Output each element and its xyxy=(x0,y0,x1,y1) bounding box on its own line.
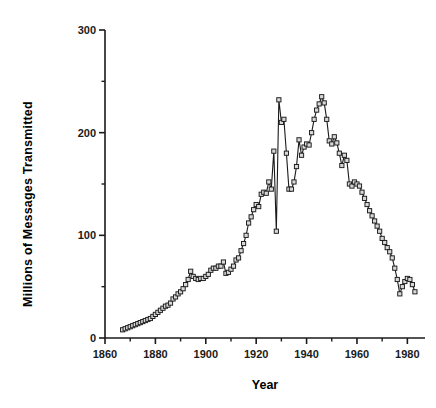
data-point-marker xyxy=(219,264,223,268)
data-point-marker xyxy=(395,277,399,281)
data-point-marker xyxy=(357,184,361,188)
data-point-marker xyxy=(272,149,276,153)
data-point-marker xyxy=(277,98,281,102)
x-tick-label: 1860 xyxy=(93,348,117,360)
data-point-marker xyxy=(282,117,286,121)
data-point-marker xyxy=(335,141,339,145)
x-tick-label: 1900 xyxy=(194,348,218,360)
x-axis-label: Year xyxy=(105,378,425,392)
y-tick-label: 100 xyxy=(78,229,96,241)
data-point-marker xyxy=(373,219,377,223)
data-point-marker xyxy=(186,277,190,281)
data-point-marker xyxy=(315,108,319,112)
data-point-marker xyxy=(252,208,256,212)
data-point-marker xyxy=(267,180,271,184)
data-point-marker xyxy=(294,164,298,168)
data-series xyxy=(121,95,417,332)
y-tick-label: 0 xyxy=(90,332,96,344)
data-point-marker xyxy=(231,264,235,268)
data-point-marker xyxy=(388,250,392,254)
data-point-marker xyxy=(221,260,225,264)
data-point-marker xyxy=(297,138,301,142)
data-point-marker xyxy=(360,190,364,194)
y-axis-label: Millions of Messages Transmitted xyxy=(10,0,46,408)
data-point-marker xyxy=(365,202,369,206)
data-point-marker xyxy=(375,224,379,228)
data-point-marker xyxy=(269,187,273,191)
data-point-marker xyxy=(362,196,366,200)
data-point-marker xyxy=(390,256,394,260)
data-point-marker xyxy=(332,135,336,139)
x-tick-label: 1880 xyxy=(143,348,167,360)
x-tick-label: 1980 xyxy=(395,348,419,360)
data-point-marker xyxy=(189,269,193,273)
x-tick-label: 1920 xyxy=(244,348,268,360)
data-point-marker xyxy=(342,153,346,157)
data-point-marker xyxy=(345,158,349,162)
data-point-marker xyxy=(236,256,240,260)
data-point-marker xyxy=(292,180,296,184)
chart-figure: Millions of Messages Transmitted 0100200… xyxy=(0,0,436,408)
data-point-marker xyxy=(299,153,303,157)
data-point-marker xyxy=(413,290,417,294)
data-point-marker xyxy=(337,151,341,155)
data-point-marker xyxy=(289,187,293,191)
data-point-marker xyxy=(307,143,311,147)
data-point-marker xyxy=(181,287,185,291)
data-point-marker xyxy=(350,184,354,188)
data-point-marker xyxy=(408,277,412,281)
data-point-marker xyxy=(274,229,278,233)
data-point-marker xyxy=(247,221,251,225)
data-point-marker xyxy=(322,101,326,105)
data-point-marker xyxy=(284,151,288,155)
data-point-marker xyxy=(393,266,397,270)
data-point-marker xyxy=(312,117,316,121)
data-point-marker xyxy=(385,246,389,250)
data-point-marker xyxy=(206,272,210,276)
data-point-marker xyxy=(310,131,314,135)
data-point-marker xyxy=(249,215,253,219)
data-point-marker xyxy=(383,240,387,244)
data-point-marker xyxy=(264,191,268,195)
data-point-marker xyxy=(400,285,404,289)
data-point-marker xyxy=(244,233,248,237)
plot-area: 01002003001860188019001920194019601980 xyxy=(0,0,436,408)
y-axis-label-container: Millions of Messages Transmitted xyxy=(10,0,46,408)
data-point-marker xyxy=(410,283,414,287)
data-point-marker xyxy=(340,163,344,167)
data-point-marker xyxy=(378,229,382,233)
data-point-marker xyxy=(325,117,329,121)
data-point-marker xyxy=(184,283,188,287)
data-point-marker xyxy=(320,95,324,99)
data-point-marker xyxy=(241,241,245,245)
x-tick-label: 1940 xyxy=(294,348,318,360)
data-point-marker xyxy=(239,249,243,253)
data-point-marker xyxy=(257,204,261,208)
y-tick-label: 300 xyxy=(78,24,96,36)
data-point-marker xyxy=(398,292,402,296)
data-point-marker xyxy=(367,209,371,213)
y-tick-label: 200 xyxy=(78,127,96,139)
data-point-marker xyxy=(168,301,172,305)
data-point-marker xyxy=(330,142,334,146)
data-point-marker xyxy=(370,214,374,218)
data-point-marker xyxy=(380,236,384,240)
x-tick-label: 1960 xyxy=(345,348,369,360)
data-point-marker xyxy=(317,102,321,106)
